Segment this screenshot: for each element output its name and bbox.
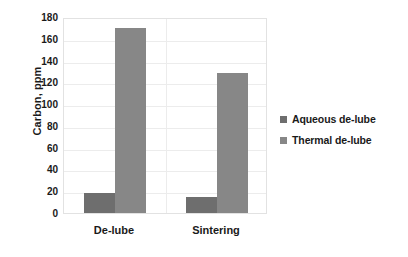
y-axis-tick-label: 0 [26, 209, 58, 219]
bar [115, 28, 146, 213]
y-axis-tick-label: 80 [26, 122, 58, 132]
x-axis-tick-labels: De-lubeSintering [63, 224, 267, 242]
bar [84, 193, 115, 213]
bar-series-container [64, 19, 266, 213]
x-axis-tick-label: Sintering [165, 224, 267, 236]
x-axis-tick-label: De-lube [63, 224, 165, 236]
y-axis-tick-label: 60 [26, 144, 58, 154]
y-axis-tick-label: 40 [26, 165, 58, 175]
y-axis-tick-label: 120 [26, 78, 58, 88]
bar [186, 197, 217, 213]
legend-item[interactable]: Thermal de-lube [280, 134, 404, 146]
legend-swatch-icon [280, 137, 287, 144]
bar-chart-figure: Carbon, ppm 020406080100120140160180 De-… [0, 0, 408, 257]
y-axis-tick-label: 100 [26, 100, 58, 110]
y-axis-tick-label: 180 [26, 13, 58, 23]
legend-item[interactable]: Aqueous de-lube [280, 113, 404, 125]
plot-area [63, 18, 267, 214]
chart-legend: Aqueous de-lubeThermal de-lube [280, 113, 404, 155]
y-axis-tick-labels: 020406080100120140160180 [26, 18, 58, 214]
legend-label: Aqueous de-lube [292, 113, 376, 125]
y-axis-tick-label: 160 [26, 35, 58, 45]
legend-swatch-icon [280, 116, 287, 123]
legend-label: Thermal de-lube [292, 134, 372, 146]
y-axis-tick-label: 140 [26, 57, 58, 67]
y-axis-tick-label: 20 [26, 187, 58, 197]
bar [217, 73, 248, 213]
